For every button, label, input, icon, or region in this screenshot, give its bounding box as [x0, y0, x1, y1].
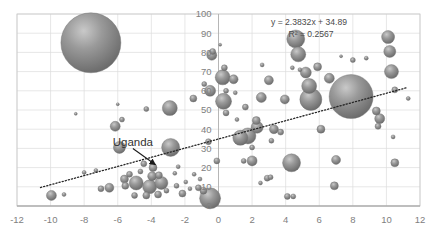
bubble-marker [372, 107, 380, 115]
bubble-point [375, 123, 381, 129]
y-tick-label: 60 [201, 85, 212, 96]
x-tick-label: 4 [283, 214, 288, 225]
bubble-marker [332, 155, 341, 164]
bubble-marker [122, 182, 129, 189]
bubble-point [214, 158, 220, 164]
bubble-marker [62, 192, 66, 196]
bubble-point [284, 193, 290, 199]
bubble-point [258, 181, 262, 185]
x-tick-label: -8 [80, 214, 88, 225]
bubble-marker [278, 129, 284, 135]
bubble-point [162, 101, 177, 116]
bubble-point [391, 135, 395, 139]
bubble-marker [260, 63, 264, 67]
bubble-point [216, 93, 232, 109]
bubble-marker [155, 191, 162, 198]
bubble-marker [298, 68, 302, 72]
bubble-marker [284, 193, 290, 199]
x-tick-label: 6 [317, 214, 322, 225]
y-tick-label: 70 [201, 66, 212, 77]
bubble-point [179, 190, 186, 197]
bubble-marker [223, 110, 229, 116]
bubble-marker [164, 188, 169, 193]
x-tick-label: 2 [249, 214, 254, 225]
bubble-marker [141, 161, 147, 167]
bubble-marker [382, 31, 395, 44]
bubble-point [219, 43, 222, 46]
bubble-point [105, 183, 114, 192]
bubble-marker [61, 13, 121, 73]
bubble-point [324, 73, 334, 83]
y-tick-label: 90 [201, 28, 212, 39]
bubble-marker [406, 96, 410, 100]
bubble-point [74, 112, 77, 115]
bubble-point [350, 58, 355, 63]
bubble-point [173, 171, 177, 175]
bubble-marker [324, 73, 334, 83]
bubble-point [283, 154, 301, 172]
bubble-point [144, 107, 149, 112]
trendline-r-squared-text: R² = 0.2567 [288, 29, 333, 39]
bubble-point [62, 192, 66, 196]
bubble-point [132, 192, 138, 198]
bubble-point [235, 118, 239, 122]
bubble-marker [330, 182, 338, 190]
trendline-equation-text: y = 2.3832x + 34.89 [271, 17, 347, 27]
bubble-marker [215, 70, 230, 85]
bubble-point [382, 31, 395, 44]
x-tick-label: -4 [147, 214, 155, 225]
bubble-marker [317, 125, 325, 133]
bubble-marker [229, 75, 238, 84]
bubble-point [143, 192, 150, 199]
bubble-marker [173, 171, 177, 175]
bubble-point [110, 121, 120, 131]
bubble-point [372, 107, 380, 115]
bubble-marker [291, 194, 296, 199]
bubble-marker [219, 43, 222, 46]
bubble-point [264, 76, 273, 85]
bubble-point [122, 182, 129, 189]
bubble-point [332, 155, 341, 164]
bubble-marker [258, 181, 262, 185]
bubble-marker [384, 45, 396, 57]
bubble-point [340, 55, 343, 58]
bubble-point [298, 68, 302, 72]
bubble-marker [179, 190, 186, 197]
bubble-point [82, 170, 86, 174]
bubble-point [155, 172, 162, 179]
bubble-marker [46, 190, 56, 200]
bubble-point [229, 75, 238, 84]
bubble-marker [98, 186, 104, 192]
bubble-marker [190, 95, 197, 102]
bubble-point [291, 47, 306, 62]
bubble-marker [216, 93, 232, 109]
bubble-point [329, 75, 373, 119]
bubble-chart: -12-10-8-6-4-2024681012 0102030405060708… [0, 0, 436, 239]
bubble-marker [250, 145, 255, 150]
bubble-point [256, 93, 266, 103]
x-tick-label: -12 [10, 214, 24, 225]
bubble-point [269, 138, 274, 143]
bubble-point [129, 176, 143, 190]
bubble-point [155, 176, 168, 189]
bubble-point [291, 194, 296, 199]
bubble-point [215, 70, 230, 85]
bubble-marker [300, 67, 311, 78]
bubble-point [317, 125, 325, 133]
bubble-marker [391, 135, 395, 139]
bubble-marker [144, 107, 149, 112]
x-tick-label: -2 [181, 214, 189, 225]
bubble-marker [105, 183, 114, 192]
bubble-marker [138, 169, 143, 174]
y-tick-label: 40 [201, 124, 212, 135]
bubble-marker [314, 63, 322, 71]
bubble-marker [269, 138, 274, 143]
bubble-point [127, 171, 133, 177]
y-tick-label: 80 [201, 47, 212, 58]
bubble-point [252, 117, 260, 125]
bubble-marker [375, 123, 381, 129]
bubble-point [290, 66, 294, 70]
bubble-marker [235, 118, 239, 122]
bubble-point [300, 67, 311, 78]
bubble-point [98, 186, 104, 192]
